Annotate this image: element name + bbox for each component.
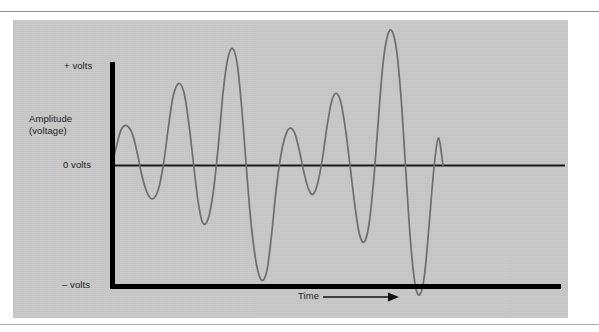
y-axis-title-line1: Amplitude (29, 113, 72, 125)
y-axis-title: Amplitude (voltage) (29, 113, 72, 137)
sound-waveform-curve (112, 30, 443, 295)
y-axis-min-label: – volts (62, 279, 90, 291)
figure-page: + volts 0 volts – volts Amplitude (volta… (0, 0, 599, 332)
y-axis-zero-label: 0 volts (63, 159, 91, 171)
y-axis-title-line2: (voltage) (29, 125, 72, 137)
time-arrow-icon (323, 292, 399, 301)
y-axis-max-label: + volts (64, 60, 92, 72)
x-axis-title: Time (298, 290, 319, 302)
